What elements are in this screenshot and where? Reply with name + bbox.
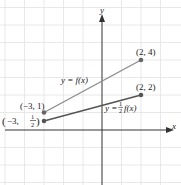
- graph: x y (2, 4) (2, 2) (−3, 1) ( −3, 1 2 ) y …: [0, 0, 181, 185]
- grid: [0, 0, 181, 185]
- label-pt-f-right: (2, 4): [136, 47, 156, 57]
- x-axis-label: x: [171, 121, 176, 131]
- point-half-left: [42, 119, 47, 124]
- svg-text:2: 2: [31, 121, 34, 128]
- svg-text:1: 1: [119, 101, 122, 107]
- svg-text:(: (: [2, 115, 6, 128]
- label-series-half: y = 1 2 f(x): [104, 101, 137, 114]
- y-axis-arrow-icon: [99, 14, 105, 22]
- svg-text:y =: y =: [104, 103, 117, 113]
- label-pt-f-left: (−3, 1): [20, 101, 45, 111]
- svg-text:f(x): f(x): [124, 103, 137, 113]
- svg-text:): ): [36, 115, 40, 128]
- svg-text:1: 1: [31, 113, 34, 120]
- svg-text:2: 2: [119, 108, 122, 114]
- y-axis-label: y: [99, 5, 104, 15]
- label-series-f: y = f(x): [60, 75, 88, 85]
- point-f-right: [139, 58, 144, 63]
- svg-text:−3,: −3,: [7, 116, 19, 126]
- point-half-right: [139, 93, 144, 98]
- label-pt-h-right: (2, 2): [136, 82, 156, 92]
- label-pt-h-left: ( −3, 1 2 ): [2, 113, 40, 128]
